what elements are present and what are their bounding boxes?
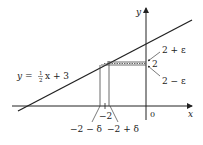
epsilon-delta-diagram: y x 0 2 + ε 2 2 − ε −2 −2 − δ −2 + δ y =… — [0, 0, 203, 145]
y-tick-upper: 2 + ε — [162, 45, 186, 55]
svg-text:y =: y = — [16, 71, 33, 81]
svg-text:2: 2 — [39, 77, 43, 83]
origin-label: 0 — [150, 110, 155, 119]
function-line — [18, 20, 192, 111]
y-axis-label: y — [135, 7, 142, 17]
y-tick-center: 2 — [152, 59, 158, 69]
diagram-svg: y x 0 2 + ε 2 2 − ε −2 −2 − δ −2 + δ y =… — [0, 0, 203, 145]
equation-label: y = 1 2 x + 3 — [16, 70, 69, 83]
x-tick-left: −2 − δ — [70, 124, 102, 134]
x-axis-label: x — [188, 109, 193, 119]
svg-text:1: 1 — [39, 70, 43, 76]
x-tick-right: −2 + δ — [107, 124, 139, 134]
x-tick-center: −2 — [99, 111, 112, 121]
y-tick-lower: 2 − ε — [162, 76, 186, 86]
svg-text:x + 3: x + 3 — [45, 71, 69, 81]
